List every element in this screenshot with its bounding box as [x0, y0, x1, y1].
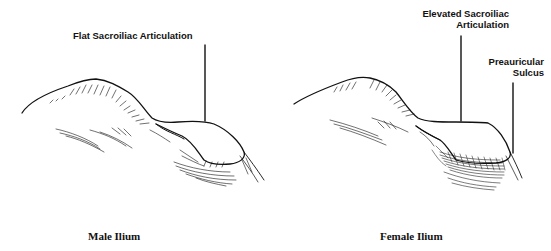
male-ilium-caption: Male Ilium: [88, 230, 140, 242]
female-articulation-label-line1: Elevated Sacroiliac: [398, 8, 509, 19]
ilium-comparison-figure: Flat Sacroiliac Articulation Elevated Sa…: [0, 0, 551, 251]
male-articulation-label: Flat Sacroiliac Articulation: [73, 30, 192, 41]
preauricular-sulcus-label-line1: Preauricular: [462, 56, 544, 67]
female-articulation-label: Elevated Sacroiliac Articulation: [398, 8, 509, 30]
preauricular-sulcus-label: Preauricular Sulcus: [462, 56, 544, 78]
female-ilium-caption: Female Ilium: [380, 230, 443, 242]
female-articulation-label-line2: Articulation: [398, 19, 509, 30]
preauricular-sulcus-label-line2: Sulcus: [462, 67, 544, 78]
female-ilium-drawing: [294, 77, 522, 190]
male-ilium-drawing: [22, 79, 264, 186]
